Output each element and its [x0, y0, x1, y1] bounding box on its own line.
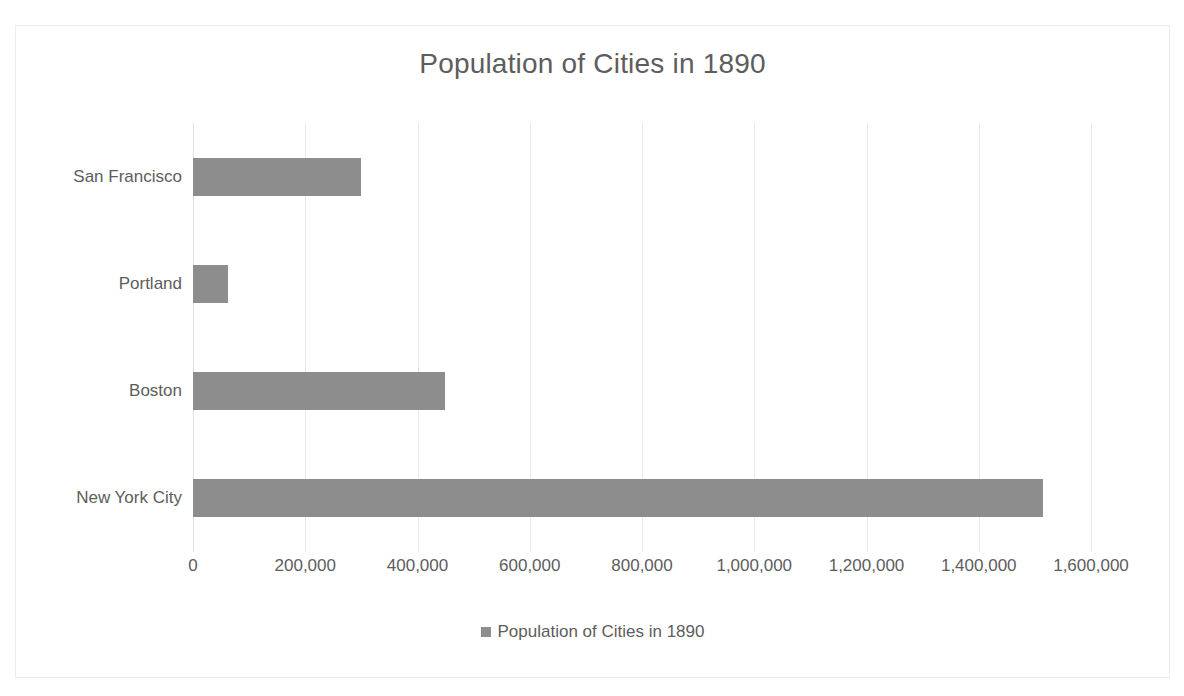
- x-tick-label-1200000: 1,200,000: [829, 556, 905, 576]
- bar-san-francisco[interactable]: [193, 158, 361, 196]
- x-tick-label-600000: 600,000: [499, 556, 560, 576]
- bar-row: Portland: [193, 230, 1091, 337]
- chart-legend: Population of Cities in 1890: [16, 622, 1169, 642]
- bar-portland[interactable]: [193, 265, 228, 303]
- x-tick-label-0: 0: [188, 556, 197, 576]
- x-tick-label-800000: 800,000: [611, 556, 672, 576]
- bar-boston[interactable]: [193, 372, 445, 410]
- x-tick-label-400000: 400,000: [387, 556, 448, 576]
- x-axis: 0200,000400,000600,000800,0001,000,0001,…: [193, 556, 1091, 586]
- bar-row: New York City: [193, 445, 1091, 552]
- legend-label: Population of Cities in 1890: [498, 622, 705, 642]
- x-tick-label-200000: 200,000: [275, 556, 336, 576]
- bar-row: Boston: [193, 338, 1091, 445]
- chart-frame: Population of Cities in 1890 San Francis…: [15, 25, 1170, 678]
- x-tick-label-1400000: 1,400,000: [941, 556, 1017, 576]
- legend-swatch-icon: [481, 627, 491, 637]
- plot-area: San FranciscoPortlandBostonNew York City: [193, 123, 1091, 552]
- category-label-portland: Portland: [119, 265, 182, 303]
- category-label-new-york-city: New York City: [76, 479, 182, 517]
- category-label-san-francisco: San Francisco: [73, 158, 182, 196]
- bar-new-york-city[interactable]: [193, 479, 1043, 517]
- bar-row: San Francisco: [193, 123, 1091, 230]
- gridline-1600000: [1091, 123, 1092, 552]
- x-tick-label-1600000: 1,600,000: [1053, 556, 1129, 576]
- x-tick-label-1000000: 1,000,000: [716, 556, 792, 576]
- chart-title: Population of Cities in 1890: [16, 48, 1169, 80]
- category-label-boston: Boston: [129, 372, 182, 410]
